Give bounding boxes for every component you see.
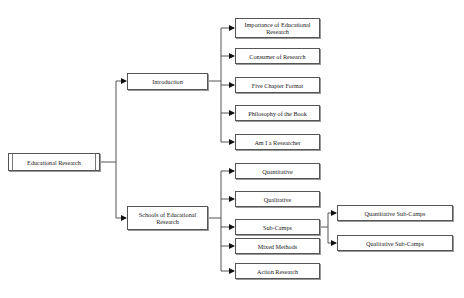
node-consumer-of-research[interactable]: Consumer of Research xyxy=(235,48,320,64)
node-label: Qualitative Sub-Camps xyxy=(366,240,424,247)
node-qualitative-sub-camps[interactable]: Qualitative Sub-Camps xyxy=(337,235,453,251)
node-label: Quantitative Sub-Camps xyxy=(364,210,425,217)
node-label: Consumer of Research xyxy=(249,53,305,60)
node-label: Sub-Camps xyxy=(263,224,292,231)
node-philosophy-of-the-book[interactable]: Philosophy of the Book xyxy=(235,105,320,121)
diagram-canvas: Educational Research Introduction School… xyxy=(0,0,464,298)
node-introduction[interactable]: Introduction xyxy=(127,73,208,90)
node-label: Qualitative xyxy=(264,196,292,203)
node-label: Introduction xyxy=(152,78,183,85)
node-action-research[interactable]: Action Research xyxy=(235,263,320,279)
node-label: Mixed Methods xyxy=(258,243,297,250)
node-educational-research[interactable]: Educational Research xyxy=(8,153,100,171)
node-importance-of-educational-research[interactable]: Importance of Educational Research xyxy=(235,18,320,38)
node-label: Schools of Educational Research xyxy=(131,211,204,225)
node-label: Five Chapter Format xyxy=(252,82,304,89)
node-label: Importance of Educational Research xyxy=(239,21,316,35)
node-am-i-a-researcher[interactable]: Am I a Researcher xyxy=(235,134,320,150)
node-five-chapter-format[interactable]: Five Chapter Format xyxy=(235,77,320,93)
connector-lines xyxy=(0,0,464,298)
node-sub-camps[interactable]: Sub-Camps xyxy=(235,219,320,235)
node-qualitative[interactable]: Qualitative xyxy=(235,191,320,207)
node-label: Educational Research xyxy=(27,159,81,166)
node-label: Action Research xyxy=(257,268,298,275)
node-label: Quantitative xyxy=(262,168,293,175)
node-label: Am I a Researcher xyxy=(254,139,300,146)
node-label: Philosophy of the Book xyxy=(248,110,307,117)
node-quantitative[interactable]: Quantitative xyxy=(235,163,320,179)
node-quantitative-sub-camps[interactable]: Quantitative Sub-Camps xyxy=(337,205,453,221)
node-schools-of-educational-research[interactable]: Schools of Educational Research xyxy=(127,206,208,230)
node-mixed-methods[interactable]: Mixed Methods xyxy=(235,238,320,254)
